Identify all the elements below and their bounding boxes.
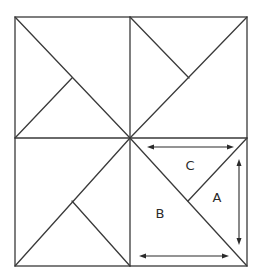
quadrant-top-left: [15, 17, 130, 138]
arrow-top-horizontal: [147, 145, 234, 150]
label-b: B: [156, 206, 165, 221]
label-a: A: [213, 190, 222, 205]
square-dissection-diagram: C A B: [0, 0, 260, 277]
arrow-bottom-horizontal: [139, 254, 229, 259]
tr-inner-line: [130, 17, 189, 78]
quadrant-top-right: [130, 17, 247, 138]
arrow-right-vertical: [237, 159, 242, 245]
tl-inner-line: [15, 78, 72, 138]
bl-inner-line: [72, 201, 130, 266]
label-c: C: [185, 158, 194, 173]
quadrant-bottom-left: [15, 138, 130, 266]
